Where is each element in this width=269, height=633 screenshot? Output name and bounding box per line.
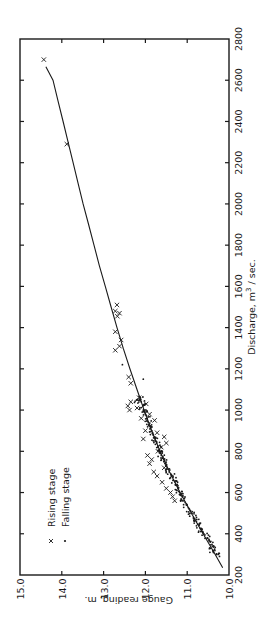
falling-stage-marker [163, 461, 165, 463]
falling-stage-marker [170, 477, 172, 479]
falling-stage-marker [144, 400, 146, 402]
legend: Rising stageFalling stage [46, 467, 71, 543]
rising-stage-marker [155, 431, 159, 435]
discharge-tick-label: 1600 [233, 274, 244, 298]
falling-stage-marker [202, 532, 204, 534]
falling-stage-marker [161, 457, 163, 459]
falling-stage-marker [201, 534, 203, 536]
gauge-tick-label: 10.0 [224, 578, 235, 599]
falling-stage-marker [151, 439, 153, 441]
falling-stage-marker [154, 436, 156, 438]
falling-stage-marker [193, 522, 195, 524]
falling-stage-marker [157, 437, 159, 439]
discharge-tick-label: 1000 [233, 398, 244, 422]
falling-stage-marker [157, 445, 159, 447]
falling-stage-marker [172, 480, 174, 482]
falling-stage-marker [142, 378, 144, 380]
falling-stage-marker [181, 491, 183, 493]
rising-stage-marker [147, 412, 151, 416]
rising-stage-marker [155, 474, 159, 478]
falling-stage-marker [204, 537, 206, 539]
falling-stage-marker [191, 511, 193, 513]
discharge-tick-label: 600 [233, 483, 244, 501]
falling-stage-marker [138, 396, 140, 398]
discharge-tick-label: 800 [233, 442, 244, 460]
rising-stage-marker [149, 457, 153, 461]
falling-stage-marker [151, 426, 153, 428]
discharge-tick-label: 1800 [233, 233, 244, 257]
falling-stage-marker [198, 518, 200, 520]
falling-stage-marker [213, 552, 215, 554]
rising-stage-marker [160, 480, 164, 484]
falling-stage-marker [218, 552, 220, 554]
gauge-axis-label: Gauge reading, m. [84, 595, 173, 606]
falling-stage-marker [209, 536, 211, 538]
falling-stage-marker [175, 477, 177, 479]
rising-stage-marker [139, 416, 143, 420]
rising-stage-marker [164, 486, 168, 490]
falling-stage-marker [189, 515, 191, 517]
falling-stage-marker [182, 496, 184, 498]
discharge-tick-label: 2000 [233, 192, 244, 216]
rising-stage-marker [172, 499, 176, 503]
falling-stage-marker [161, 459, 163, 461]
discharge-tick-label: 2200 [233, 151, 244, 175]
falling-stage-marker [153, 442, 155, 444]
falling-stage-marker [159, 441, 161, 443]
falling-stage-marker [160, 455, 162, 457]
rating-curve-chart: 2004006008001000120014001600180020002200… [0, 0, 269, 633]
rising-stage-marker [117, 344, 121, 348]
falling-stage-marker [186, 503, 188, 505]
falling-stage-marker [148, 425, 150, 427]
falling-stage-marker [188, 511, 190, 513]
falling-stage-marker [206, 533, 208, 535]
falling-stage-marker [144, 420, 146, 422]
falling-stage-marker [150, 420, 152, 422]
falling-stage-marker [210, 544, 212, 546]
falling-stage-marker [165, 465, 167, 467]
gauge-tick-label: 14.0 [57, 578, 68, 599]
falling-stage-marker [142, 410, 144, 412]
rising-stage-marker [147, 461, 151, 465]
falling-stage-marker [196, 519, 198, 521]
falling-stage-marker [195, 515, 197, 517]
rising-stage-marker [168, 490, 172, 494]
discharge-tick-label: 2600 [233, 68, 244, 92]
falling-stage-marker [155, 440, 157, 442]
rising-stage-marker [141, 437, 145, 441]
falling-stage-marker [161, 451, 163, 453]
falling-stage-marker [170, 474, 172, 476]
falling-stage-marker [159, 444, 161, 446]
rising-stage-marker [113, 330, 117, 334]
falling-stage-marker [184, 502, 186, 504]
falling-stage-marker [137, 402, 139, 404]
falling-stage-marker [158, 449, 160, 451]
legend-label: Falling stage [60, 467, 71, 527]
falling-stage-marker [175, 484, 177, 486]
falling-stage-marker [196, 521, 198, 523]
falling-stage-marker [183, 506, 185, 508]
falling-stage-marker [169, 468, 171, 470]
falling-stage-marker [145, 409, 147, 411]
falling-stage-marker [208, 534, 210, 536]
falling-stage-marker [198, 531, 200, 533]
falling-stage-marker [165, 461, 167, 463]
falling-stage-marker [149, 422, 151, 424]
falling-stage-marker [147, 416, 149, 418]
falling-stage-marker [159, 452, 161, 454]
discharge-tick-label: 2800 [233, 27, 244, 51]
discharge-tick-label: 1400 [233, 316, 244, 340]
falling-stage-marker [197, 523, 199, 525]
falling-stage-marker [200, 528, 202, 530]
rising-stage-marker [42, 57, 46, 61]
falling-stage-marker [139, 400, 141, 402]
falling-stage-marker [199, 523, 201, 525]
axis-labels: Discharge, m3 / sec.Gauge reading, m. [84, 259, 257, 606]
rising-stage-marker [135, 406, 139, 410]
falling-stage-marker [181, 499, 183, 501]
falling-stage-marker [144, 404, 146, 406]
falling-stage-marker [183, 504, 185, 506]
falling-stage-marker [210, 541, 212, 543]
falling-stage-marker [212, 541, 214, 543]
rising-stage-marker [143, 428, 147, 432]
